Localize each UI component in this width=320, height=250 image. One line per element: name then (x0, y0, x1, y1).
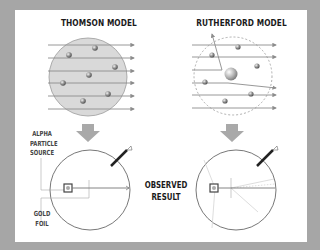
thomson-title: THOMSON MODEL (61, 17, 117, 28)
alpha-particle-source-label: ALPHA PARTICLE SOURCE (30, 130, 54, 159)
down-arrow-icon (76, 124, 100, 142)
observed-result-label: OBSERVED RESULT (144, 179, 188, 203)
rutherford-title: RUTHERFORD MODEL (196, 17, 269, 28)
down-arrow-icon (220, 124, 244, 142)
gold-foil-label: GOLD FOIL (30, 210, 54, 229)
rutherford-model (192, 34, 276, 115)
thomson-model (48, 38, 134, 116)
expected-experiment (41, 146, 132, 230)
detector-screen (196, 150, 276, 230)
nucleus (225, 68, 238, 81)
observed-experiment (196, 146, 278, 230)
